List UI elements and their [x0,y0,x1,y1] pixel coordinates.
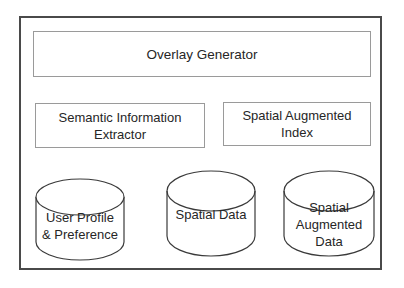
user-profile-label-line1: User Profile [36,209,124,226]
spatial-augmented-data-datastore-label: Spatial Augmented Data [283,199,375,250]
user-profile-label-line2: & Preference [36,226,124,243]
spatial-augmented-data-label-line3: Data [283,233,375,250]
semantic-extractor-label-line1: Semantic Information [59,109,182,126]
spatial-augmented-index-label-line2: Index [242,124,351,141]
overlay-generator-label: Overlay Generator [146,46,257,63]
spatial-augmented-data-label-line2: Augmented [283,216,375,233]
spatial-augmented-index-label-line1: Spatial Augmented [242,107,351,124]
user-profile-datastore-label: User Profile & Preference [36,209,124,243]
spatial-augmented-index-box: Spatial Augmented Index [223,102,371,146]
spatial-augmented-data-label-line1: Spatial [283,199,375,216]
semantic-extractor-label-line2: Extractor [59,126,182,143]
semantic-information-extractor-box: Semantic Information Extractor [35,103,205,148]
overlay-generator-box: Overlay Generator [33,31,371,77]
spatial-data-label-line1: Spatial Data [166,206,256,223]
spatial-data-datastore-label: Spatial Data [166,206,256,223]
